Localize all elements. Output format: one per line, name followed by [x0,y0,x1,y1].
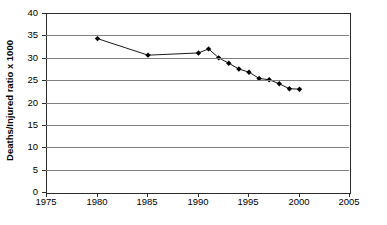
data-point-marker [297,86,302,91]
x-axis-tick-label: 1985 [127,196,167,207]
y-axis-tick-mark [42,13,46,14]
y-axis-tick-label: 35 [2,30,38,40]
data-point-marker [236,66,241,71]
data-point-marker [277,81,282,86]
x-axis-tick-label: 2005 [329,196,369,207]
x-axis-tick-label: 1975 [26,196,66,207]
x-axis-tick-mark [46,193,47,197]
x-axis-tick-mark [97,193,98,197]
x-axis-tick-mark [198,193,199,197]
gridline [46,125,349,126]
data-point-marker [246,69,251,74]
x-axis-tick-mark [349,193,350,197]
x-axis-tick-label: 1990 [178,196,218,207]
x-axis-tick-label: 2000 [279,196,319,207]
y-axis-tick-label: 10 [2,142,38,152]
chart-container: Deaths/Injured ratio x 1000 051015202530… [0,0,387,225]
gridline [46,147,349,148]
data-point-marker [226,61,231,66]
y-axis-tick-label: 40 [2,8,38,18]
data-point-marker [287,86,292,91]
gridline [46,103,349,104]
series-markers [95,36,302,92]
y-axis-tick-label: 5 [2,165,38,175]
gridline [46,80,349,81]
data-point-marker [95,36,100,41]
x-axis-tick-mark [147,193,148,197]
gridline [46,35,349,36]
gridline [46,58,349,59]
gridline [46,170,349,171]
data-point-marker [196,50,201,55]
y-axis-tick-label: 20 [2,98,38,108]
y-axis-tick-label: 30 [2,53,38,63]
x-axis-tick-mark [299,193,300,197]
y-axis-tick-label: 15 [2,120,38,130]
x-axis-tick-label: 1980 [77,196,117,207]
x-axis-tick-mark [248,193,249,197]
y-axis-tick-label: 25 [2,75,38,85]
x-axis-tick-label: 1995 [228,196,268,207]
